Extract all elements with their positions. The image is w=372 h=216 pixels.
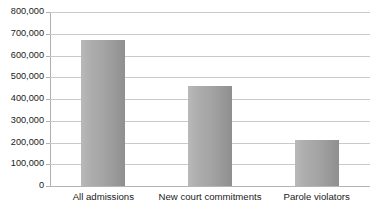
y-axis-tick-mark	[46, 143, 50, 144]
y-axis-tick-label: 300,000	[11, 116, 44, 125]
bar-chart: 0100,000200,000300,000400,000500,000600,…	[0, 0, 372, 216]
y-axis-tick-label: 100,000	[11, 160, 44, 169]
bar	[295, 140, 339, 186]
y-axis-tick-mark	[46, 186, 50, 187]
y-axis-tick-mark	[46, 12, 50, 13]
gridline	[50, 34, 370, 35]
gridline	[50, 186, 370, 187]
gridline	[50, 12, 370, 13]
y-axis-tick-labels: 0100,000200,000300,000400,000500,000600,…	[0, 0, 48, 216]
y-axis-tick-label: 700,000	[11, 29, 44, 38]
y-axis-tick-mark	[46, 56, 50, 57]
y-axis-tick-label: 800,000	[11, 7, 44, 16]
y-axis-tick-label: 400,000	[11, 94, 44, 103]
category-label: Parole violators	[284, 192, 350, 203]
y-axis-tick-mark	[46, 99, 50, 100]
x-axis-category-labels: All admissionsNew court commitmentsParol…	[50, 192, 370, 214]
y-axis-tick-mark	[46, 77, 50, 78]
plot-area	[50, 12, 370, 186]
category-label: New court commitments	[159, 192, 262, 203]
y-axis-tick-label: 200,000	[11, 138, 44, 147]
y-axis-tick-label: 600,000	[11, 51, 44, 60]
bar	[188, 86, 232, 186]
bar	[81, 40, 125, 186]
y-axis-tick-mark	[46, 121, 50, 122]
category-label: All admissions	[73, 192, 134, 203]
y-axis-tick-mark	[46, 34, 50, 35]
y-axis-tick-label: 500,000	[11, 73, 44, 82]
y-axis-tick-label: 0	[39, 181, 44, 190]
y-axis-tick-mark	[46, 164, 50, 165]
